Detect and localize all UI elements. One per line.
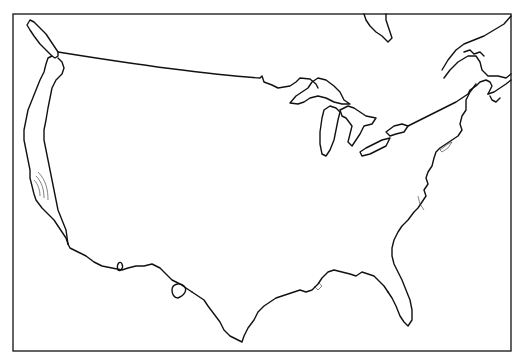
map-frame [13, 14, 511, 351]
gulf-of-st-lawrence [442, 16, 511, 70]
lake-superior [290, 78, 350, 104]
lake-michigan [320, 106, 340, 156]
canada-border [58, 52, 318, 88]
hudson-bay-edge [364, 14, 392, 42]
mexico-border [68, 244, 192, 292]
atlantic-coast [388, 84, 476, 326]
nova-scotia [488, 80, 511, 102]
sf-bay-lines [34, 172, 48, 200]
vancouver-island [27, 20, 58, 58]
newfoundland-edge [464, 50, 484, 56]
lake-ontario [386, 124, 408, 136]
lake-erie [360, 138, 390, 156]
gaspe-peninsula [444, 56, 511, 78]
inner-coast-line [44, 58, 68, 244]
st-lawrence-coast [408, 80, 492, 126]
big-bend-loop [172, 284, 186, 298]
gulf-coast [192, 270, 388, 342]
map-canvas [0, 0, 523, 359]
lake-huron [340, 106, 376, 146]
